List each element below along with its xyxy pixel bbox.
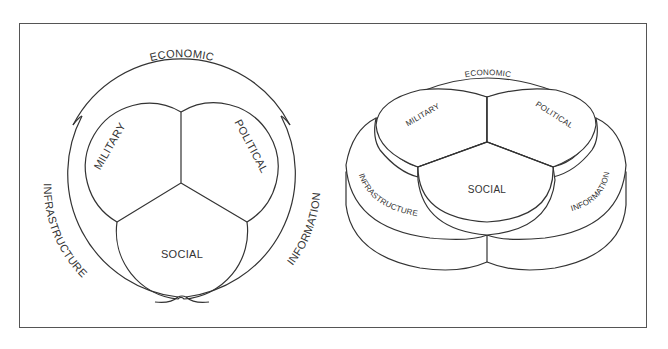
- information-label: INFORMATION: [285, 192, 323, 268]
- economic-label: ECONOMIC: [149, 47, 216, 63]
- military-label: MILITARY: [91, 120, 128, 171]
- social-circle: [116, 222, 247, 299]
- diagram-canvas: ECONOMIC MILITARY POLITICAL SOCIAL INFRA…: [0, 0, 668, 349]
- left-diagram: ECONOMIC MILITARY POLITICAL SOCIAL INFRA…: [42, 47, 322, 302]
- right-diagram: ECONOMIC MILITARY POLITICAL SOCIAL INFRA…: [346, 68, 626, 270]
- political-label: POLITICAL: [232, 117, 270, 175]
- social-label-3d: SOCIAL: [468, 184, 507, 195]
- information-circle: [186, 116, 295, 297]
- social-label: SOCIAL: [161, 248, 203, 260]
